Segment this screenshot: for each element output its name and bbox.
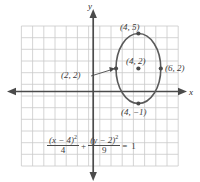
- y-numerator-exponent: 2: [115, 134, 118, 140]
- x-term-numerator: (x − 4)2: [47, 136, 79, 145]
- leader-arrow-left-vertex: [91, 67, 115, 76]
- point-center: [136, 66, 140, 70]
- label-bottom-vertex: (4, −1): [121, 107, 147, 117]
- equation-right-side: 1: [129, 142, 138, 151]
- y-numerator-text: (y − 2): [90, 135, 115, 145]
- equals-sign: =: [120, 142, 129, 151]
- point-right-vertex: [159, 66, 163, 70]
- plus-operator: +: [79, 142, 88, 151]
- ellipse-graph-figure: (4, 5) (4, 2) (6, 2) (2, 2) (4, −1) x y …: [0, 0, 200, 182]
- x-term-denominator: 4: [47, 145, 79, 155]
- point-bottom-vertex: [136, 101, 140, 105]
- x-numerator-exponent: 2: [74, 134, 77, 140]
- x-numerator-text: (x − 4): [49, 135, 74, 145]
- y-term-numerator: (y − 2)2: [88, 136, 120, 145]
- ellipse-equation: (x − 4)2 4 + (y − 2)2 9 = 1: [47, 136, 138, 156]
- x-term-fraction: (x − 4)2 4: [47, 136, 79, 156]
- label-top-vertex: (4, 5): [120, 22, 140, 32]
- point-top-vertex: [136, 31, 140, 35]
- x-axis: [7, 88, 187, 95]
- label-left-vertex: (2, 2): [61, 70, 81, 80]
- y-term-denominator: 9: [88, 145, 120, 155]
- x-axis-label: x: [189, 87, 193, 97]
- y-term-fraction: (y − 2)2 9: [88, 136, 120, 156]
- label-center: (4, 2): [126, 56, 146, 66]
- y-axis-label: y: [88, 1, 92, 11]
- label-right-vertex: (6, 2): [165, 63, 185, 73]
